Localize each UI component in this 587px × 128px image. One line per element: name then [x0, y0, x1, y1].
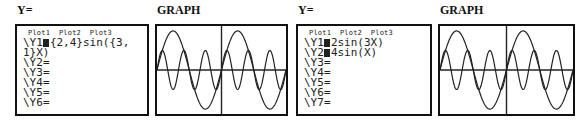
y-editor-screen-2: Plot1 Plot2 Plot3 \Y12sin(3X) \Y24sin(X)… — [296, 24, 432, 116]
equation-line[interactable]: \Y6= — [23, 98, 147, 108]
equation-prefix: \Y6 — [23, 96, 43, 109]
equation-expr: {2,4}sin({3, — [50, 36, 129, 49]
sine-graph — [440, 26, 573, 114]
equation-line[interactable]: \Y7= — [304, 98, 430, 108]
equation-expr: = — [324, 96, 331, 109]
y-editor-label-2: Y= — [298, 3, 314, 18]
sine-graph — [157, 26, 286, 114]
graph-screen-1 — [155, 24, 288, 116]
graph-screen-2 — [438, 24, 575, 116]
equals-selected-marker — [324, 39, 330, 47]
y-editor-label-1: Y= — [17, 3, 33, 18]
equation-expr: 4sin(X) — [331, 46, 377, 59]
graph-label-2: GRAPH — [440, 3, 483, 18]
equation-expr: = — [43, 96, 50, 109]
graph-label-1: GRAPH — [157, 3, 200, 18]
equation-prefix: \Y7 — [304, 96, 324, 109]
y-editor-screen-1: Plot1 Plot2 Plot3 \Y1{2,4}sin({3, 1}X) \… — [15, 24, 149, 116]
